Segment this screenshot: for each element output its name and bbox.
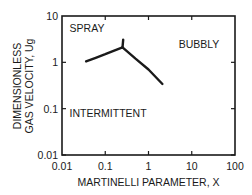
y-tick-label: 1 (52, 56, 58, 68)
flow-regime-chart: 0.010.1110100 0.010.1110 SPRAYBUBBLYINTE… (0, 0, 252, 195)
region-label-intermittent: INTERMITTENT (70, 107, 148, 119)
x-tick-label: 10 (186, 160, 198, 172)
x-tick-label: 100 (226, 160, 244, 172)
y-axis-label-line-1: DIMENSIONLESS (11, 43, 23, 129)
x-axis-label: MARTINELLI PARAMETER, X (78, 176, 220, 188)
region-label-bubbly: BUBBLY (179, 38, 220, 50)
chart-canvas: 0.010.1110100 0.010.1110 SPRAYBUBBLYINTE… (0, 0, 252, 195)
y-tick-label: 0.01 (38, 149, 59, 161)
x-tick-label: 0.1 (98, 160, 113, 172)
region-label-spray: SPRAY (70, 22, 105, 34)
y-axis-label: DIMENSIONLESS GAS VELOCITY, Ug (11, 38, 35, 133)
y-tick-label: 0.1 (43, 103, 58, 115)
chart-background (0, 0, 252, 195)
x-tick-label: 1 (146, 160, 152, 172)
y-tick-label: 10 (46, 10, 58, 22)
y-axis-label-line-2: GAS VELOCITY, Ug (23, 38, 35, 133)
x-tick-label: 0.01 (52, 160, 73, 172)
